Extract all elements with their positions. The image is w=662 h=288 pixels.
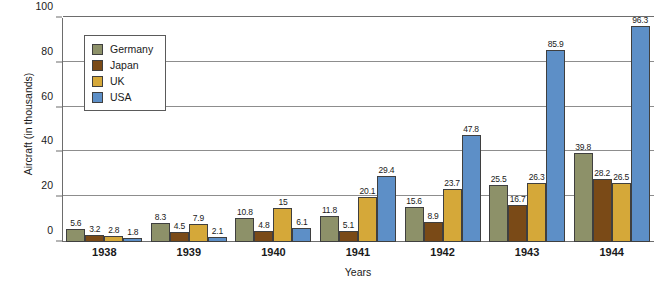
bar-usa-1944[interactable]: 96.3 (631, 18, 650, 242)
legend-label: UK (110, 75, 125, 87)
bar-rect: 4.8 (254, 231, 273, 242)
bar-value-label: 3.2 (89, 224, 100, 234)
bar-rect: 1.8 (123, 238, 142, 242)
y-tick-label-40: 40 (41, 134, 53, 146)
bar-usa-1939[interactable]: 2.1 (208, 18, 227, 242)
bar-rect: 11.8 (320, 216, 339, 242)
x-tick-label-1944: 1944 (599, 246, 623, 258)
bar-value-label: 47.8 (463, 124, 479, 134)
bar-japan-1941[interactable]: 5.1 (339, 18, 358, 242)
bar-value-label: 96.3 (632, 15, 648, 25)
bar-value-label: 26.5 (613, 172, 629, 182)
bar-chart: Aircraft (in thousands) 020406080100 5.6… (0, 0, 662, 288)
bar-uk-1939[interactable]: 7.9 (189, 18, 208, 242)
bar-rect: 96.3 (631, 26, 650, 242)
x-tick-label-1942: 1942 (430, 246, 454, 258)
bar-value-label: 5.6 (70, 218, 81, 228)
bar-value-label: 26.3 (529, 172, 545, 182)
bar-rect: 6.1 (292, 228, 311, 242)
bar-value-label: 15 (278, 197, 287, 207)
x-tick-label-1939: 1939 (177, 246, 201, 258)
bar-uk-1940[interactable]: 15 (273, 18, 292, 242)
bar-rect: 20.1 (358, 197, 377, 242)
legend-label: USA (110, 91, 132, 103)
bar-rect: 15 (273, 208, 292, 242)
bar-uk-1943[interactable]: 26.3 (527, 18, 546, 242)
legend-item-uk[interactable]: UK (92, 73, 153, 89)
bar-germany-1942[interactable]: 15.6 (405, 18, 424, 242)
bar-group-1941: 11.85.120.129.4 (320, 18, 396, 242)
bar-uk-1942[interactable]: 23.7 (443, 18, 462, 242)
bar-rect: 2.8 (104, 236, 123, 242)
bar-value-label: 8.3 (155, 212, 166, 222)
y-tick-label-0: 0 (47, 224, 53, 236)
bar-germany-1938[interactable]: 5.6 (66, 18, 85, 242)
legend-item-germany[interactable]: Germany (92, 41, 153, 57)
bar-rect: 47.8 (462, 135, 481, 242)
bar-rect: 16.7 (508, 205, 527, 242)
bar-rect: 8.3 (151, 223, 170, 242)
bar-germany-1943[interactable]: 25.5 (489, 18, 508, 242)
legend-swatch-germany (92, 44, 103, 55)
x-tick-label-1938: 1938 (92, 246, 116, 258)
bar-usa-1943[interactable]: 85.9 (546, 18, 565, 242)
bar-value-label: 16.7 (510, 194, 526, 204)
legend-swatch-japan (92, 60, 103, 71)
x-tick-label-1943: 1943 (515, 246, 539, 258)
bar-value-label: 4.8 (258, 220, 269, 230)
bar-value-label: 2.1 (212, 226, 223, 236)
bar-value-label: 8.9 (427, 211, 438, 221)
bar-uk-1941[interactable]: 20.1 (358, 18, 377, 242)
bar-value-label: 6.1 (296, 217, 307, 227)
x-axis-title: Years (62, 266, 654, 278)
bar-rect: 10.8 (235, 218, 254, 242)
bar-value-label: 28.2 (594, 168, 610, 178)
bar-japan-1940[interactable]: 4.8 (254, 18, 273, 242)
bar-rect: 3.2 (85, 235, 104, 242)
legend-item-japan[interactable]: Japan (92, 57, 153, 73)
bar-rect: 25.5 (489, 185, 508, 242)
y-tick-label-80: 80 (41, 45, 53, 57)
bar-germany-1940[interactable]: 10.8 (235, 18, 254, 242)
bar-japan-1942[interactable]: 8.9 (424, 18, 443, 242)
bar-uk-1944[interactable]: 26.5 (612, 18, 631, 242)
bar-value-label: 15.6 (406, 196, 422, 206)
y-tick-label-20: 20 (41, 179, 53, 191)
bar-value-label: 1.8 (127, 227, 138, 237)
bar-rect: 4.5 (170, 232, 189, 242)
y-tick-label-100: 100 (35, 0, 53, 12)
bar-value-label: 2.8 (108, 225, 119, 235)
bar-rect: 23.7 (443, 189, 462, 242)
y-axis-ticks: 020406080100 (0, 18, 62, 242)
bar-rect: 5.1 (339, 231, 358, 242)
bar-rect: 85.9 (546, 50, 565, 242)
bar-germany-1941[interactable]: 11.8 (320, 18, 339, 242)
bar-japan-1939[interactable]: 4.5 (170, 18, 189, 242)
legend-label: Germany (110, 43, 153, 55)
x-tick-label-1940: 1940 (261, 246, 285, 258)
bar-value-label: 29.4 (379, 165, 395, 175)
bar-usa-1942[interactable]: 47.8 (462, 18, 481, 242)
legend-item-usa[interactable]: USA (92, 89, 153, 105)
bar-rect: 15.6 (405, 207, 424, 242)
bar-usa-1941[interactable]: 29.4 (377, 18, 396, 242)
bar-germany-1944[interactable]: 39.8 (574, 18, 593, 242)
bar-rect: 29.4 (377, 176, 396, 242)
bar-usa-1940[interactable]: 6.1 (292, 18, 311, 242)
bar-rect: 26.5 (612, 183, 631, 242)
bar-group-1943: 25.516.726.385.9 (489, 18, 565, 242)
bar-japan-1943[interactable]: 16.7 (508, 18, 527, 242)
bar-rect: 39.8 (574, 153, 593, 242)
legend: GermanyJapanUKUSA (84, 35, 166, 111)
bar-japan-1944[interactable]: 28.2 (593, 18, 612, 242)
bar-value-label: 7.9 (193, 213, 204, 223)
bar-rect: 7.9 (189, 224, 208, 242)
bar-value-label: 20.1 (360, 186, 376, 196)
legend-label: Japan (110, 59, 139, 71)
bar-value-label: 11.8 (322, 205, 337, 215)
legend-swatch-uk (92, 76, 103, 87)
bar-rect: 5.6 (66, 229, 85, 242)
x-tick-label-1941: 1941 (346, 246, 370, 258)
bar-value-label: 23.7 (444, 178, 460, 188)
bar-rect: 26.3 (527, 183, 546, 242)
